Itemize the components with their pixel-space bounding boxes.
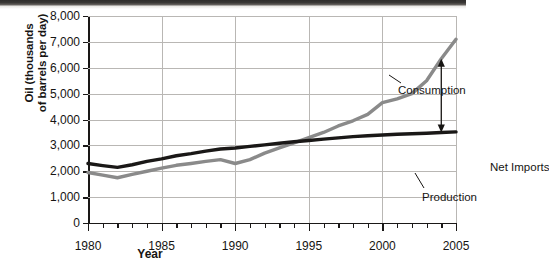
x-axis-tick <box>456 223 457 231</box>
y-axis-tick-label: 6,000 <box>50 61 80 75</box>
annotation-production: Production <box>422 191 477 203</box>
x-axis-tick <box>309 223 310 231</box>
y-axis-tick-label: 8,000 <box>50 9 80 23</box>
x-axis-tick-label: 1990 <box>222 239 249 253</box>
x-axis-tick-label: 1985 <box>148 239 175 253</box>
y-axis-title-line2: of barrels per day) <box>36 0 49 148</box>
x-axis-tick <box>162 223 163 231</box>
annotation-net-imports: Net Imports <box>490 161 549 173</box>
x-axis-tick <box>382 223 383 231</box>
x-axis-tick-label: 1995 <box>295 239 322 253</box>
leader-production <box>415 173 424 188</box>
y-axis-title: Oil (thousands of barrels per day) <box>23 0 49 148</box>
y-axis-tick-label: 1,000 <box>50 190 80 204</box>
y-axis-tick-label: 2,000 <box>50 164 80 178</box>
leader-consumption <box>389 75 401 83</box>
y-axis-title-line1: Oil (thousands <box>23 0 36 148</box>
y-axis-tick-label: 3,000 <box>50 138 80 152</box>
series-lines <box>88 16 456 224</box>
x-axis-tick-label: 2005 <box>443 239 470 253</box>
annotation-consumption: Consumption <box>398 84 466 96</box>
y-axis-tick-label: 5,000 <box>50 87 80 101</box>
plot-area: Consumption Net Imports Production <box>88 16 456 224</box>
x-axis-tick <box>88 223 89 231</box>
y-axis-tick-label: 0 <box>73 216 80 230</box>
x-axis-tick-label: 1980 <box>75 239 102 253</box>
y-axis-tick-label: 7,000 <box>50 35 80 49</box>
x-axis-tick-label: 2000 <box>369 239 396 253</box>
y-axis-tick-label: 4,000 <box>50 113 80 127</box>
x-axis-tick <box>235 223 236 231</box>
series-line-consumption <box>88 39 456 177</box>
